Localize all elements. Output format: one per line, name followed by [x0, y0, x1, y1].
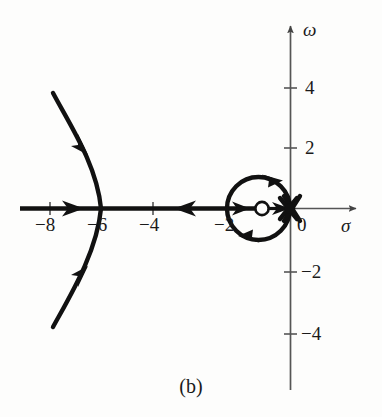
x-tick-label--8: −8: [35, 214, 55, 236]
pole-core: [285, 203, 296, 214]
sigma-axis-label: σ: [341, 215, 350, 237]
figure-caption: (b): [0, 375, 382, 398]
y-tick-label-4: 4: [305, 77, 315, 99]
y-tick-label--2: −2: [301, 261, 321, 283]
arc-arrow-lower: [71, 266, 88, 287]
x-tick-label--2: −2: [214, 214, 234, 236]
root-locus-figure: −8 −6 −4 −2 0 4 2 −2 −4 ω σ (b): [0, 0, 382, 417]
omega-axis-label: ω: [303, 19, 316, 41]
open-loop-zero-marker: [255, 202, 268, 215]
y-tick-label--4: −4: [301, 323, 321, 345]
x-tick-label--4: −4: [139, 214, 159, 236]
x-tick-label-0: 0: [297, 214, 307, 236]
zero-icon: [255, 202, 268, 215]
y-tick-label-2: 2: [305, 137, 315, 159]
x-tick-label--6: −6: [87, 214, 107, 236]
root-locus-canvas: [0, 0, 382, 417]
